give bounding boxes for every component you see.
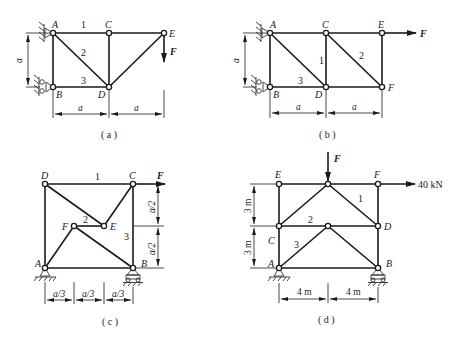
node-C bbox=[130, 181, 135, 186]
label-E: E bbox=[377, 19, 384, 30]
label-A: A bbox=[34, 258, 42, 269]
dimension-width2-label: a bbox=[352, 102, 357, 112]
dimension-w1-label: 4 m bbox=[297, 287, 312, 297]
label-A: A bbox=[269, 19, 277, 30]
node-D bbox=[106, 84, 111, 89]
node-B bbox=[130, 265, 135, 270]
label-D: D bbox=[383, 221, 392, 232]
node-E bbox=[161, 30, 166, 35]
member-label-1: 1 bbox=[81, 19, 86, 30]
member-A-mid bbox=[279, 226, 328, 268]
node-E bbox=[276, 181, 281, 186]
dimension-h2-label: 3 m bbox=[243, 240, 253, 255]
force-label-F: F bbox=[333, 153, 341, 164]
node-F bbox=[375, 181, 380, 186]
label-F: F bbox=[61, 221, 69, 232]
node-top-middle bbox=[325, 181, 330, 186]
caption-c: ( c ) bbox=[102, 316, 118, 328]
label-C: C bbox=[105, 19, 112, 30]
label-A: A bbox=[51, 19, 59, 30]
node-B bbox=[50, 84, 55, 89]
label-B: B bbox=[56, 89, 62, 100]
truss-figures: A C E B D 1 2 3 F a a a ( a ) bbox=[0, 0, 459, 337]
dimension-w2-label: 4 m bbox=[346, 287, 361, 297]
label-E: E bbox=[109, 221, 116, 232]
dimension-w2-label: a/3 bbox=[82, 289, 94, 299]
dimension-width2-label: a bbox=[134, 103, 139, 113]
caption-b: ( b ) bbox=[319, 129, 336, 141]
dimension-h1-label: a/2 bbox=[147, 201, 157, 213]
force-label-F: F bbox=[419, 28, 427, 39]
dimension-h1-label: 3 m bbox=[243, 198, 253, 213]
dimension-height-label: a bbox=[14, 58, 24, 63]
figure-b: A C E B D F 1 2 3 F a a a ( b ) bbox=[231, 19, 427, 141]
member-DE bbox=[45, 184, 104, 226]
member-label-3: 3 bbox=[124, 231, 129, 242]
member-top-D bbox=[328, 184, 378, 226]
member-CE bbox=[104, 184, 133, 226]
member-label-3: 3 bbox=[81, 75, 86, 86]
node-A bbox=[267, 30, 272, 35]
force-label-40kN: 40 kN bbox=[418, 179, 443, 190]
dimension-w1-label: a/3 bbox=[53, 289, 65, 299]
node-B bbox=[375, 265, 380, 270]
node-D bbox=[375, 223, 380, 228]
member-label-1: 1 bbox=[95, 171, 100, 182]
label-E: E bbox=[274, 169, 281, 180]
dimension-w3-label: a/3 bbox=[112, 289, 124, 299]
label-F: F bbox=[387, 82, 395, 93]
force-label-F: F bbox=[156, 170, 164, 181]
caption-a: ( a ) bbox=[101, 129, 117, 141]
node-B bbox=[267, 84, 272, 89]
figure-d: E F C D A B 1 2 3 F 40 kN 3 m 3 m 4 m 4 … bbox=[243, 152, 443, 326]
label-D: D bbox=[40, 170, 49, 181]
label-C: C bbox=[129, 170, 136, 181]
member-label-2: 2 bbox=[359, 50, 364, 61]
member-CF bbox=[326, 33, 382, 87]
node-A bbox=[50, 30, 55, 35]
caption-d: ( d ) bbox=[318, 314, 335, 326]
member-label-1: 1 bbox=[358, 193, 363, 204]
member-C-top bbox=[279, 184, 328, 226]
figure-c: D C A B F E 1 2 3 F a/2 a/2 a/3 a/3 a/3 … bbox=[34, 170, 165, 328]
label-E: E bbox=[168, 28, 175, 39]
label-A: A bbox=[267, 258, 275, 269]
label-D: D bbox=[314, 89, 323, 100]
dimension-width1-label: a bbox=[296, 102, 301, 112]
member-mid-B bbox=[328, 226, 378, 268]
node-A bbox=[42, 265, 47, 270]
figure-a: A C E B D 1 2 3 F a a a ( a ) bbox=[14, 19, 177, 141]
node-E bbox=[379, 30, 384, 35]
node-C bbox=[276, 223, 281, 228]
node-F bbox=[71, 223, 76, 228]
dimension-height-label: a bbox=[231, 58, 241, 63]
node-D bbox=[42, 181, 47, 186]
member-AF bbox=[45, 226, 74, 268]
label-B: B bbox=[141, 258, 147, 269]
member-label-2: 2 bbox=[308, 214, 313, 225]
node-middle bbox=[325, 223, 330, 228]
member-label-2: 2 bbox=[81, 47, 86, 58]
node-A bbox=[276, 265, 281, 270]
node-F bbox=[379, 84, 384, 89]
member-DE bbox=[109, 33, 164, 87]
member-label-3: 3 bbox=[298, 75, 303, 86]
node-E bbox=[101, 223, 106, 228]
node-D bbox=[323, 84, 328, 89]
label-B: B bbox=[273, 89, 279, 100]
force-label-F: F bbox=[169, 46, 177, 57]
dimension-h2-label: a/2 bbox=[147, 243, 157, 255]
node-C bbox=[106, 30, 111, 35]
node-C bbox=[323, 30, 328, 35]
label-D: D bbox=[97, 89, 106, 100]
member-label-3: 3 bbox=[294, 239, 299, 250]
dimension-width1-label: a bbox=[78, 103, 83, 113]
label-B: B bbox=[386, 258, 392, 269]
label-C: C bbox=[322, 19, 329, 30]
member-label-2: 2 bbox=[83, 214, 88, 225]
label-C: C bbox=[268, 235, 275, 246]
label-F: F bbox=[373, 169, 381, 180]
member-label-1: 1 bbox=[319, 55, 324, 66]
